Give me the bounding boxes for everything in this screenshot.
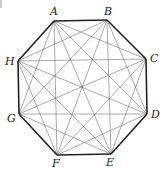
vertex-label-d: D (150, 108, 160, 121)
vertex-label-b: B (103, 5, 112, 18)
diagonal-AD (54, 21, 147, 114)
edge-FG (19, 114, 57, 155)
edge-BC (107, 20, 146, 59)
vertex-label-g: G (7, 112, 16, 125)
octagon-diagram: ABCDEFGH (0, 0, 165, 170)
edge-CD (146, 59, 147, 114)
diagonal-FH (18, 61, 57, 155)
diagonal-EG (19, 114, 111, 154)
diagonal-DF (57, 114, 147, 155)
vertex-label-f: F (51, 157, 60, 170)
vertex-label-a: A (49, 5, 58, 18)
diagonal-BE (107, 20, 111, 154)
diagonal-CF (57, 59, 146, 155)
edge-DE (111, 114, 147, 154)
edge-EF (57, 154, 111, 155)
edge-AB (54, 20, 107, 21)
vertex-label-e: E (105, 156, 114, 169)
edge-GH (18, 61, 19, 114)
diagonal-CH (18, 59, 146, 61)
diagonal-EH (18, 61, 111, 154)
diagonal-BH (18, 20, 107, 61)
edge-AH (18, 21, 54, 61)
vertex-label-h: H (4, 55, 15, 68)
diagonal-AF (54, 21, 57, 155)
vertex-label-c: C (150, 52, 159, 65)
